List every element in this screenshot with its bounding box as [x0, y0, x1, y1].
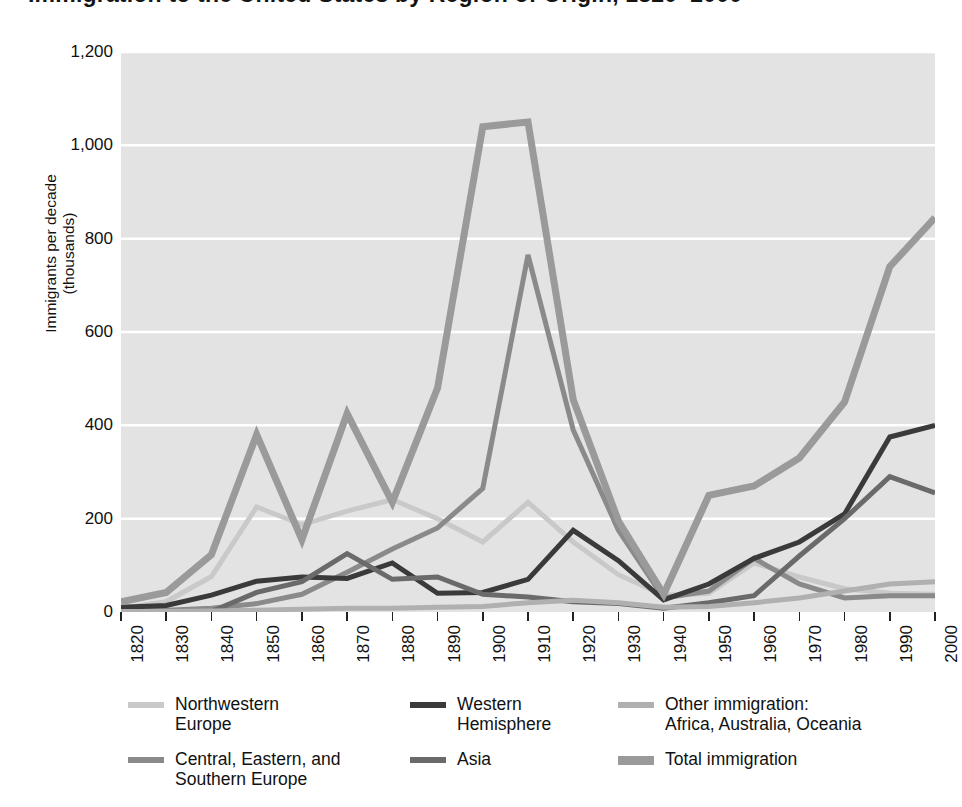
- chart-plot-svg: [121, 52, 935, 612]
- x-tick-mark: [120, 612, 122, 621]
- x-tick-mark: [708, 612, 710, 621]
- y-tick-label: 400: [43, 415, 113, 435]
- x-tick-mark: [392, 612, 394, 621]
- chart-legend: Northwestern EuropeCentral, Eastern, and…: [128, 694, 938, 802]
- x-tick-label: 1980: [852, 625, 872, 663]
- series-lines: [121, 122, 935, 612]
- y-tick-label: 1,000: [43, 135, 113, 155]
- series-line: [121, 477, 935, 612]
- x-tick-mark: [844, 612, 846, 621]
- legend-swatch: [618, 756, 654, 765]
- x-tick-mark: [301, 612, 303, 621]
- x-tick-label: 1850: [264, 625, 284, 663]
- legend-item[interactable]: Central, Eastern, and Southern Europe: [128, 749, 340, 789]
- x-tick-mark: [618, 612, 620, 621]
- x-tick-mark: [753, 612, 755, 621]
- x-tick-label: 1870: [354, 625, 374, 663]
- x-tick-label: 1960: [761, 625, 781, 663]
- legend-swatch: [128, 757, 164, 763]
- legend-swatch: [128, 702, 164, 708]
- legend-item[interactable]: Western Hemisphere: [410, 694, 551, 734]
- x-tick-label: 1890: [445, 625, 465, 663]
- x-tick-mark: [346, 612, 348, 621]
- x-tick-label: 1920: [580, 625, 600, 663]
- x-tick-mark: [889, 612, 891, 621]
- x-tick-mark: [165, 612, 167, 621]
- legend-label: Asia: [457, 749, 491, 769]
- x-tick-label: 1940: [671, 625, 691, 663]
- y-tick-label: 600: [43, 322, 113, 342]
- y-axis-tick-labels: 02004006008001,0001,200: [41, 52, 113, 612]
- y-tick-label: 800: [43, 229, 113, 249]
- x-tick-mark: [934, 612, 936, 621]
- x-tick-mark: [482, 612, 484, 621]
- legend-label: Total immigration: [665, 749, 797, 769]
- x-tick-label: 1930: [625, 625, 645, 663]
- legend-item[interactable]: Asia: [410, 749, 491, 769]
- x-tick-mark: [527, 612, 529, 621]
- y-tick-label: 1,200: [43, 42, 113, 62]
- y-tick-label: 0: [43, 602, 113, 622]
- x-tick-label: 1840: [218, 625, 238, 663]
- x-axis-tick-labels: 1820183018401850186018701880189019001910…: [121, 612, 935, 692]
- x-tick-mark: [437, 612, 439, 621]
- legend-label: Other immigration: Africa, Australia, Oc…: [665, 694, 861, 734]
- chart-title: Immigration to the United States by Regi…: [28, 0, 742, 8]
- legend-item[interactable]: Total immigration: [618, 749, 797, 769]
- x-tick-label: 1900: [490, 625, 510, 663]
- legend-label: Western Hemisphere: [457, 694, 551, 734]
- x-tick-label: 1830: [173, 625, 193, 663]
- x-tick-label: 1950: [716, 625, 736, 663]
- y-tick-label: 200: [43, 509, 113, 529]
- x-tick-mark: [663, 612, 665, 621]
- x-tick-label: 2000: [942, 625, 962, 663]
- legend-label: Central, Eastern, and Southern Europe: [175, 749, 340, 789]
- legend-item[interactable]: Other immigration: Africa, Australia, Oc…: [618, 694, 861, 734]
- legend-swatch: [410, 702, 446, 708]
- series-line: [121, 500, 935, 609]
- legend-swatch: [410, 757, 446, 763]
- x-tick-label: 1990: [897, 625, 917, 663]
- series-line: [121, 255, 935, 611]
- legend-item[interactable]: Northwestern Europe: [128, 694, 279, 734]
- x-tick-mark: [799, 612, 801, 621]
- x-tick-label: 1970: [806, 625, 826, 663]
- x-tick-label: 1910: [535, 625, 555, 663]
- x-tick-mark: [211, 612, 213, 621]
- x-tick-mark: [256, 612, 258, 621]
- x-tick-label: 1820: [128, 625, 148, 663]
- x-tick-label: 1860: [309, 625, 329, 663]
- legend-label: Northwestern Europe: [175, 694, 279, 734]
- x-tick-mark: [572, 612, 574, 621]
- plot-area: [121, 52, 935, 612]
- x-tick-label: 1880: [399, 625, 419, 663]
- legend-swatch: [618, 702, 654, 708]
